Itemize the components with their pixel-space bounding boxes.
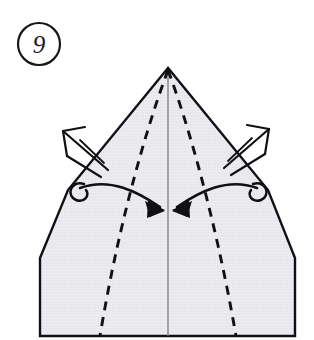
origami-figure-canvas: 9 xyxy=(0,0,314,340)
step-number-label: 9 xyxy=(33,31,46,58)
origami-diagram: 9 xyxy=(0,0,314,340)
step-number-badge: 9 xyxy=(18,23,60,65)
left-pull-arrow-head-top xyxy=(63,127,85,131)
right-pull-arrow-head-top xyxy=(247,125,269,129)
